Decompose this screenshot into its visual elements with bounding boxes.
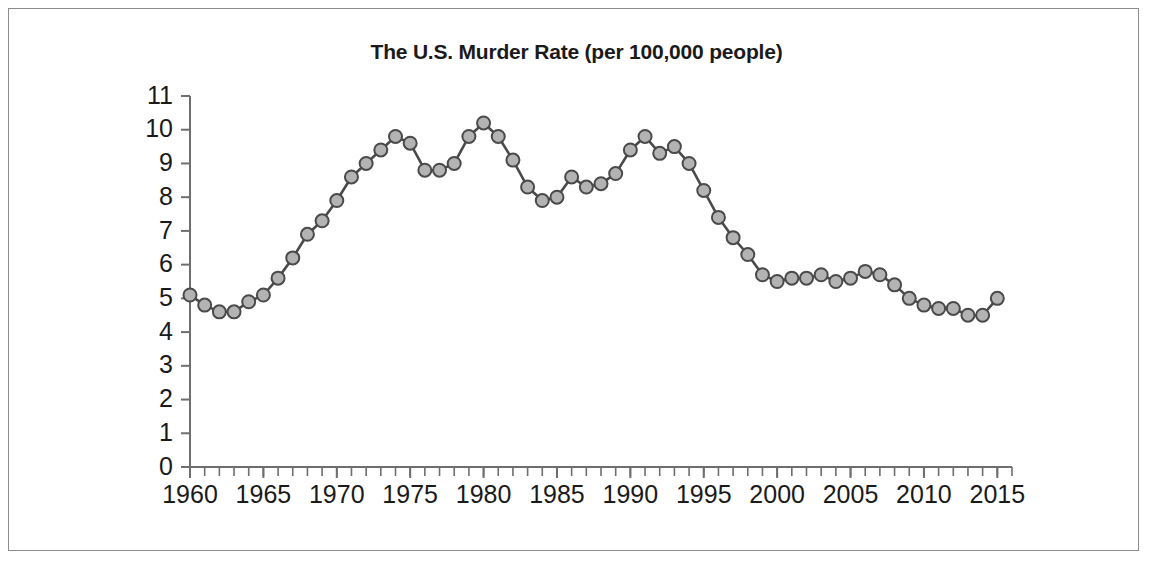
data-point: 2002: 5.6 — [800, 272, 813, 285]
data-point: 1995: 8.2 — [697, 184, 710, 197]
data-point: 2001: 5.6 — [785, 272, 798, 285]
data-point: 1973: 9.4 — [374, 143, 387, 156]
y-tick-label: 11 — [147, 81, 173, 109]
plot-area: 01234567891011 1960196519701975198019851… — [0, 0, 1153, 563]
data-point: 1968: 6.9 — [301, 228, 314, 241]
data-point: 2005: 5.6 — [844, 272, 857, 285]
data-point: 1976: 8.8 — [418, 164, 431, 177]
y-tick-label: 1 — [159, 418, 173, 446]
data-point: 1964: 4.9 — [242, 295, 255, 308]
y-tick-label: 0 — [159, 452, 173, 480]
x-tick-label: 1995 — [676, 480, 732, 508]
data-point: 1961: 4.8 — [198, 299, 211, 312]
data-point: 1987: 8.3 — [580, 181, 593, 194]
data-point: 1989: 8.7 — [609, 167, 622, 180]
data-point: 1990: 9.4 — [624, 143, 637, 156]
data-point: 1970: 7.9 — [330, 194, 343, 207]
x-tick-label: 1975 — [382, 480, 438, 508]
data-point: 1982: 9.1 — [506, 154, 519, 167]
x-tick-label: 2005 — [823, 480, 879, 508]
x-tick-label: 1970 — [309, 480, 365, 508]
data-point: 1991: 9.8 — [639, 130, 652, 143]
series-line — [190, 123, 997, 315]
data-point: 2008: 5.4 — [888, 278, 901, 291]
y-axis: 01234567891011 — [145, 81, 190, 480]
x-tick-label: 2000 — [749, 480, 805, 508]
data-point: 1983: 8.3 — [521, 181, 534, 194]
x-tick-label: 1980 — [456, 480, 512, 508]
data-point: 1994: 9 — [683, 157, 696, 170]
data-point: 1962: 4.6 — [213, 305, 226, 318]
data-series: 1960: 5.11961: 4.81962: 4.61963: 4.61964… — [184, 116, 1004, 321]
y-tick-label: 9 — [159, 148, 173, 176]
data-point: 2010: 4.8 — [917, 299, 930, 312]
x-tick-label: 2015 — [970, 480, 1026, 508]
data-point: 1978: 9 — [448, 157, 461, 170]
data-point: 1996: 7.4 — [712, 211, 725, 224]
data-point: 1971: 8.6 — [345, 170, 358, 183]
data-point: 1993: 9.5 — [668, 140, 681, 153]
data-point: 1979: 9.8 — [462, 130, 475, 143]
data-point: 1999: 5.7 — [756, 268, 769, 281]
x-tick-label: 1985 — [529, 480, 585, 508]
x-tick-label: 1965 — [236, 480, 292, 508]
x-tick-label: 1960 — [162, 480, 218, 508]
data-point: 1972: 9 — [360, 157, 373, 170]
line-chart-svg: 01234567891011 1960196519701975198019851… — [0, 0, 1153, 563]
y-tick-label: 7 — [159, 216, 173, 244]
data-point: 1969: 7.3 — [316, 214, 329, 227]
data-point: 2006: 5.8 — [859, 265, 872, 278]
y-tick-label: 10 — [145, 114, 173, 142]
data-point: 1963: 4.6 — [228, 305, 241, 318]
data-point: 1980: 10.2 — [477, 116, 490, 129]
data-point: 1984: 7.9 — [536, 194, 549, 207]
data-point: 1998: 6.3 — [741, 248, 754, 261]
y-tick-label: 6 — [159, 249, 173, 277]
data-point: 2011: 4.7 — [932, 302, 945, 315]
data-point: 1965: 5.1 — [257, 288, 270, 301]
data-point: 1981: 9.8 — [492, 130, 505, 143]
x-tick-label: 1990 — [603, 480, 659, 508]
y-tick-label: 2 — [159, 384, 173, 412]
data-point: 1988: 8.4 — [595, 177, 608, 190]
data-point: 1974: 9.8 — [389, 130, 402, 143]
data-point: 2012: 4.7 — [947, 302, 960, 315]
data-point: 1975: 9.6 — [404, 137, 417, 150]
data-point: 1966: 5.6 — [272, 272, 285, 285]
y-tick-label: 8 — [159, 182, 173, 210]
data-point: 1997: 6.8 — [727, 231, 740, 244]
data-point: 2013: 4.5 — [961, 309, 974, 322]
data-point: 2007: 5.7 — [873, 268, 886, 281]
data-point: 1992: 9.3 — [653, 147, 666, 160]
data-point: 1977: 8.8 — [433, 164, 446, 177]
data-point: 2000: 5.5 — [771, 275, 784, 288]
y-tick-label: 4 — [159, 317, 173, 345]
data-point: 1985: 8 — [550, 191, 563, 204]
data-point: 1986: 8.6 — [565, 170, 578, 183]
data-point: 2009: 5 — [903, 292, 916, 305]
x-tick-label: 2010 — [896, 480, 952, 508]
y-tick-label: 5 — [159, 283, 173, 311]
data-point: 1967: 6.2 — [286, 251, 299, 264]
x-axis: 1960196519701975198019851990199520002005… — [162, 467, 1025, 508]
data-point: 2003: 5.7 — [815, 268, 828, 281]
data-point: 2015: 5 — [991, 292, 1004, 305]
data-point: 2004: 5.5 — [829, 275, 842, 288]
chart-page: The U.S. Murder Rate (per 100,000 people… — [0, 0, 1153, 563]
data-point: 1960: 5.1 — [184, 288, 197, 301]
y-tick-label: 3 — [159, 350, 173, 378]
data-point: 2014: 4.5 — [976, 309, 989, 322]
